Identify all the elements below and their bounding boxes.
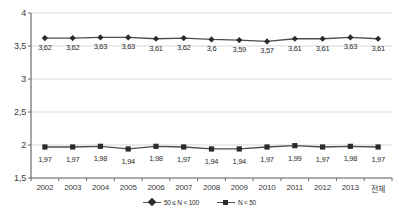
data-point-label: 3,6	[207, 44, 217, 53]
data-point-marker	[97, 34, 103, 40]
data-point-marker	[292, 36, 298, 42]
data-point-label: 1,97	[316, 155, 329, 164]
diamond-marker-icon	[143, 198, 161, 206]
y-axis-tick-label: 1,5	[0, 173, 26, 183]
data-point-label: 3,62	[177, 43, 190, 52]
data-point-label: 3,61	[288, 44, 301, 53]
data-point-label: 3,63	[344, 42, 357, 51]
data-point-label: 1,97	[260, 155, 273, 164]
y-axis-tick-label: 2	[0, 140, 26, 150]
legend-item-series-2: N < 50	[217, 198, 256, 206]
y-axis-tick-label: 4	[0, 8, 26, 18]
legend-item-series-1: 50 ≤ N < 100	[143, 198, 199, 206]
data-point-marker	[70, 35, 76, 41]
x-axis-tick-label: 2007	[175, 183, 192, 192]
x-axis-tick-label: 전체	[371, 183, 385, 194]
legend-label-series-1: 50 ≤ N < 100	[164, 199, 199, 206]
chart-legend: 50 ≤ N < 100 N < 50	[0, 198, 399, 206]
data-point-marker	[264, 144, 269, 149]
x-axis-tick-label: 2013	[342, 183, 359, 192]
data-point-label: 1,99	[288, 154, 301, 163]
data-point-marker	[181, 35, 187, 41]
data-point-label: 1,94	[121, 157, 134, 166]
data-point-marker	[376, 144, 381, 149]
data-point-label: 1,97	[371, 155, 384, 164]
data-point-marker	[292, 143, 297, 148]
legend-label-series-2: N < 50	[238, 199, 256, 206]
x-axis-tick-label: 2012	[314, 183, 331, 192]
data-point-marker	[375, 36, 381, 42]
data-point-marker	[153, 144, 158, 149]
x-axis-tick-label: 2011	[287, 183, 303, 192]
y-axis-tick-label: 2,5	[0, 107, 26, 117]
data-point-label: 1,97	[38, 155, 51, 164]
x-axis-tick-label: 2005	[120, 183, 137, 192]
line-chart: 1,522,533,54 200220032004200520062007200…	[0, 0, 399, 224]
data-point-label: 3,61	[149, 44, 162, 53]
data-point-marker	[347, 34, 353, 40]
data-point-marker	[236, 37, 242, 43]
data-point-marker	[125, 34, 131, 40]
x-axis-tick-label: 2002	[36, 183, 53, 192]
chart-plot-area	[0, 0, 399, 224]
data-point-marker	[208, 36, 214, 42]
x-axis-tick-label: 2008	[203, 183, 220, 192]
data-point-marker	[237, 146, 242, 151]
data-point-label: 1,94	[205, 157, 218, 166]
x-axis-tick-label: 2006	[147, 183, 164, 192]
data-point-marker	[70, 144, 75, 149]
data-point-marker	[319, 36, 325, 42]
data-point-label: 3,61	[316, 44, 329, 53]
y-axis-tick-label: 3	[0, 74, 26, 84]
data-point-label: 3,59	[233, 45, 246, 54]
data-point-label: 3,62	[66, 43, 79, 52]
data-point-marker	[153, 36, 159, 42]
x-axis-tick-label: 2004	[92, 183, 109, 192]
x-axis-tick-label: 2010	[259, 183, 276, 192]
data-point-marker	[348, 144, 353, 149]
data-point-label: 1,98	[149, 154, 162, 163]
y-axis-tick-label: 3,5	[0, 41, 26, 51]
data-point-label: 3,63	[94, 42, 107, 51]
data-point-marker	[181, 144, 186, 149]
data-point-marker	[320, 144, 325, 149]
square-marker-icon	[217, 198, 235, 206]
data-point-label: 1,97	[177, 155, 190, 164]
data-point-marker	[42, 35, 48, 41]
data-point-marker	[98, 144, 103, 149]
x-axis-tick-label: 2009	[231, 183, 248, 192]
data-point-marker	[126, 146, 131, 151]
data-point-label: 3,63	[121, 42, 134, 51]
data-point-label: 3,57	[260, 46, 273, 55]
data-point-label: 1,97	[66, 155, 79, 164]
data-point-marker	[42, 144, 47, 149]
data-point-label: 3,62	[38, 43, 51, 52]
data-point-marker	[264, 38, 270, 44]
x-axis-tick-label: 2003	[64, 183, 81, 192]
data-point-label: 1,94	[233, 157, 246, 166]
data-point-label: 1,98	[94, 154, 107, 163]
data-point-marker	[209, 146, 214, 151]
data-point-label: 3,61	[371, 44, 384, 53]
data-point-label: 1,98	[344, 154, 357, 163]
